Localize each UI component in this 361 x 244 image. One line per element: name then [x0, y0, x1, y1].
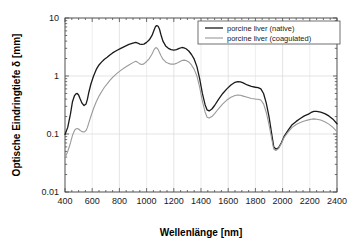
x-tick-label: 2200: [300, 196, 320, 206]
x-axis-title: Wellenlänge [nm]: [160, 227, 243, 238]
x-tick-label: 1400: [191, 196, 211, 206]
x-tick-label: 1000: [137, 196, 157, 206]
y-axis-title: Optische Eindringtiefe δ [mm]: [11, 34, 22, 177]
x-tick-label: 400: [57, 196, 72, 206]
x-tick-label: 2400: [327, 196, 347, 206]
chart-figure: 4006008001000120014001600180020002200240…: [0, 0, 361, 244]
penetration-depth-chart: 4006008001000120014001600180020002200240…: [0, 0, 361, 244]
legend: porcine liver (native)porcine liver (coa…: [198, 21, 340, 44]
x-tick-label: 2000: [273, 196, 293, 206]
x-tick-label: 1200: [164, 196, 184, 206]
y-tick-label: 1: [54, 71, 59, 81]
legend-label: porcine liver (native): [227, 24, 295, 33]
x-tick-label: 1800: [245, 196, 265, 206]
legend-label: porcine liver (coagulated): [227, 34, 312, 43]
x-tick-label: 800: [112, 196, 127, 206]
y-tick-label: 0.1: [46, 129, 59, 139]
y-tick-label: 0.01: [41, 187, 59, 197]
x-tick-label: 1600: [218, 196, 238, 206]
x-tick-label: 600: [85, 196, 100, 206]
y-tick-label: 10: [49, 13, 59, 23]
